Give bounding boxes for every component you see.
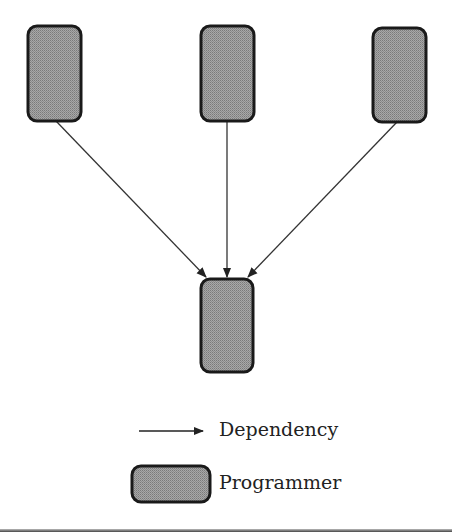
programmer-node-top-right [373, 28, 426, 122]
programmer-node-top-middle [201, 26, 254, 121]
programmer-node-bottom [201, 279, 253, 372]
programmer-node-top-left [28, 26, 81, 121]
legend-programmer-label: Programmer [219, 471, 341, 493]
dependency-edge-left [56, 121, 206, 277]
dependency-diagram [0, 0, 452, 532]
legend-programmer-box-icon [132, 466, 210, 502]
legend-dependency-label: Dependency [219, 418, 338, 440]
dependency-edge-right [248, 122, 397, 277]
